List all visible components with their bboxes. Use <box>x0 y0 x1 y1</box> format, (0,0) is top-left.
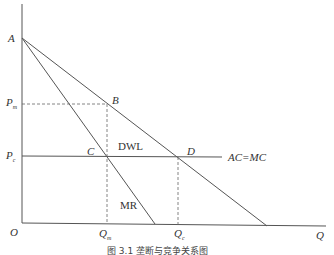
origin-label: O <box>10 226 18 238</box>
pm-label: Pm <box>5 96 18 110</box>
figure-caption: 图 3.1 垄断与竞争关系图 <box>107 245 208 255</box>
pc-label: Pc <box>5 149 16 163</box>
point-b-label: B <box>112 94 119 106</box>
point-c-label: C <box>87 145 95 157</box>
point-a-label: A <box>7 32 15 44</box>
quantity-axis <box>22 223 326 226</box>
monopoly-competition-diagram: A B C D Pm Pc O Qm Qc Q DWL MR AC=MC 图 3… <box>0 0 334 255</box>
demand-curve <box>22 38 267 226</box>
ac-mc-label: AC=MC <box>227 151 267 163</box>
dwl-label: DWL <box>118 140 143 152</box>
qc-label: Qc <box>174 227 185 241</box>
q-axis-label: Q <box>316 229 324 241</box>
mr-curve <box>22 38 155 224</box>
qm-label: Qm <box>99 227 112 241</box>
point-d-label: D <box>186 145 195 157</box>
mr-label: MR <box>120 199 138 211</box>
